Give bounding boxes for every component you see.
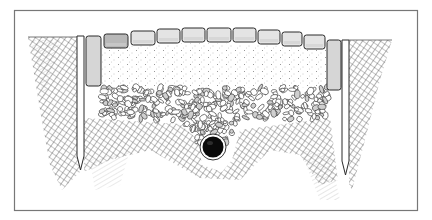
diagram-canvas: Cross-section of a paved path with edge … <box>0 0 432 220</box>
curb-right <box>327 40 341 90</box>
stake-right <box>342 40 349 175</box>
drain-pipe <box>200 134 226 160</box>
sand-bedding-layer <box>101 43 327 88</box>
curb-left <box>86 36 101 86</box>
path-cross-section-illustration <box>0 0 432 220</box>
stake-left <box>77 36 84 170</box>
